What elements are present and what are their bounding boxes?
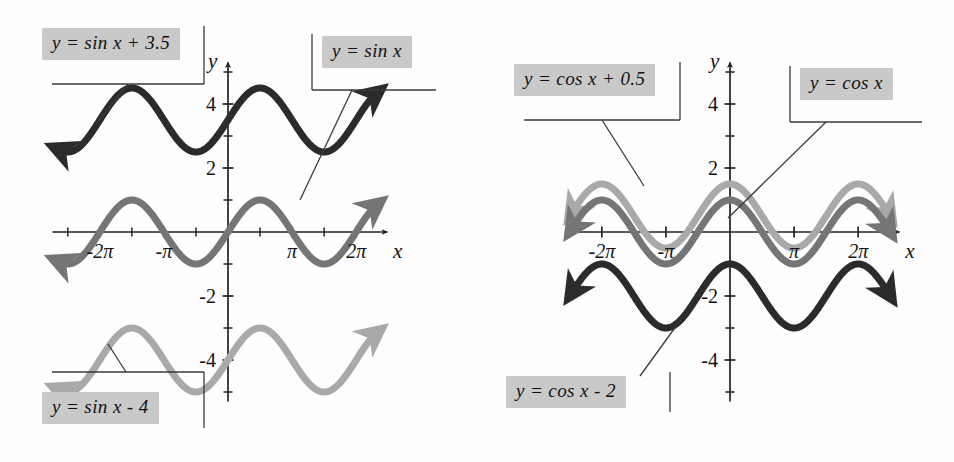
label-cos: y = cos x [800, 68, 893, 100]
x-tick-label: -2π [588, 240, 616, 262]
x-tick-label: 2π [848, 240, 869, 262]
y-axis-label: y [708, 49, 720, 73]
cosine-translations-plot: -2π-ππ2π42-2-4xy y = cos x + 0.5y = cos … [470, 0, 954, 462]
label-cos-minus-2-text: y = cos x - 2 [506, 376, 626, 408]
x-tick-label: -π [156, 240, 174, 262]
y-tick-label: -2 [701, 285, 718, 307]
x-tick-label: π [287, 240, 298, 262]
y-tick-label: -4 [701, 349, 718, 371]
label-cos-text: y = cos x [800, 68, 893, 100]
label-sin-minus-4-text: y = sin x - 4 [42, 392, 159, 424]
callout-leader-line [728, 122, 826, 218]
label-sin-text: y = sin x [322, 36, 412, 68]
label-cos-plus-0p5: y = cos x + 0.5 [514, 64, 655, 96]
label-sin-minus-4: y = sin x - 4 [42, 392, 159, 424]
x-tick-label: π [789, 240, 800, 262]
callout-leader-line [108, 344, 126, 372]
x-tick-label: -2π [86, 240, 114, 262]
x-axis-label: x [904, 239, 915, 263]
sine-translations-plot: -2π-ππ2π42-2-4xy y = sin x + 3.5y = sin … [0, 0, 470, 462]
trig-translations-figure: -2π-ππ2π42-2-4xy y = sin x + 3.5y = sin … [0, 0, 954, 462]
label-sin: y = sin x [322, 36, 412, 68]
x-tick-label: 2π [346, 240, 367, 262]
y-tick-label: -4 [199, 349, 216, 371]
label-cos-plus-0p5-text: y = cos x + 0.5 [514, 64, 655, 96]
y-tick-label: -2 [199, 285, 216, 307]
y-tick-label: 4 [708, 93, 718, 115]
curve-sin-minus-4 [62, 328, 378, 392]
label-sin-plus-3p5-text: y = sin x + 3.5 [42, 28, 180, 60]
x-tick-label: -π [658, 240, 676, 262]
callout-leader-line [98, 84, 128, 122]
label-cos-minus-2: y = cos x - 2 [506, 376, 626, 408]
label-sin-plus-3p5: y = sin x + 3.5 [42, 28, 180, 60]
y-tick-label: 2 [206, 157, 216, 179]
curve-sin-plus-3p5 [62, 88, 378, 152]
y-axis-label: y [206, 49, 218, 73]
callout-leader-line [602, 120, 644, 186]
y-tick-label: 4 [206, 93, 216, 115]
axes [565, 62, 900, 401]
y-tick-label: 2 [708, 157, 718, 179]
x-axis-label: x [392, 239, 403, 263]
